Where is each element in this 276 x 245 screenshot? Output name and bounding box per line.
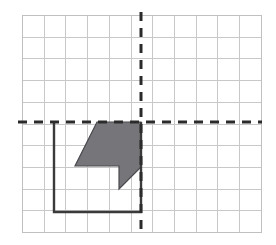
coordinate-grid-figure [0,0,276,245]
grid-canvas [0,0,276,245]
